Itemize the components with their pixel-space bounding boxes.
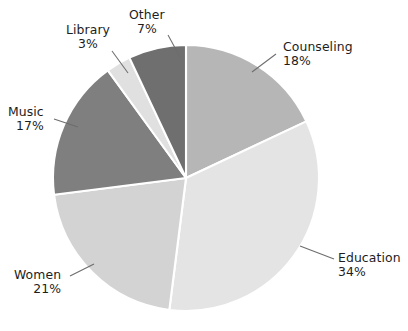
pie-label-name: Women xyxy=(14,268,61,282)
pie-label-name: Education xyxy=(338,251,401,265)
pie-label-percent: 3% xyxy=(66,37,110,51)
pie-chart: Counseling18%Education34%Women21%Music17… xyxy=(0,0,408,331)
pie-label-name: Counseling xyxy=(283,40,353,54)
leader-line-education xyxy=(300,246,334,259)
pie-label-percent: 21% xyxy=(14,282,61,296)
pie-slice-women[interactable] xyxy=(54,178,186,310)
pie-label-other: Other7% xyxy=(129,8,165,36)
pie-label-percent: 34% xyxy=(338,265,401,279)
pie-label-percent: 17% xyxy=(8,119,44,133)
pie-label-women: Women21% xyxy=(14,268,61,296)
pie-slices-group xyxy=(53,45,319,311)
pie-label-percent: 18% xyxy=(283,54,353,68)
pie-label-name: Other xyxy=(129,8,165,22)
pie-label-library: Library3% xyxy=(66,23,110,51)
pie-label-percent: 7% xyxy=(129,22,165,36)
pie-label-name: Library xyxy=(66,23,110,37)
pie-label-education: Education34% xyxy=(338,251,401,279)
pie-label-counseling: Counseling18% xyxy=(283,40,353,68)
pie-label-music: Music17% xyxy=(8,105,44,133)
pie-label-name: Music xyxy=(8,105,44,119)
